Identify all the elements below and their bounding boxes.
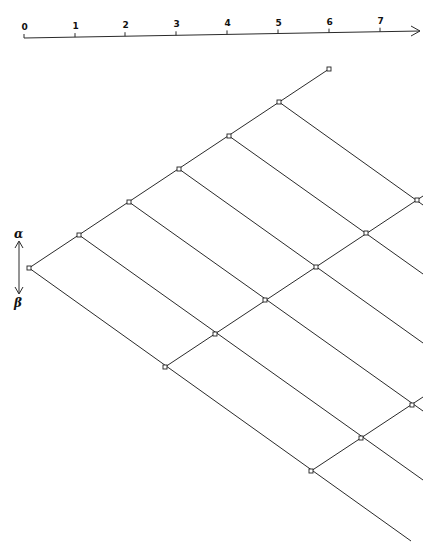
down-diagonal-line bbox=[79, 235, 423, 480]
lattice-node bbox=[410, 403, 414, 407]
lattice-node bbox=[314, 265, 318, 269]
axis-tick-label: 3 bbox=[174, 19, 180, 29]
axis-tick-label: 4 bbox=[225, 18, 231, 28]
lattice-diagram: 01234567 α β bbox=[0, 0, 441, 559]
lattice-node bbox=[163, 365, 167, 369]
lattice-node bbox=[359, 436, 363, 440]
beta-label: β bbox=[13, 296, 22, 310]
down-diagonal-line bbox=[29, 268, 411, 541]
lattice-node bbox=[177, 167, 181, 171]
axis-tick-label: 2 bbox=[123, 20, 129, 30]
axis-tick-label: 5 bbox=[276, 18, 282, 28]
axis-line bbox=[24, 31, 420, 38]
lattice-node bbox=[263, 298, 267, 302]
lattice-node bbox=[364, 231, 368, 235]
number-axis: 01234567 bbox=[22, 16, 421, 38]
lattice-nodes bbox=[27, 67, 419, 473]
alpha-label: α bbox=[14, 227, 23, 241]
lattice-node bbox=[277, 100, 281, 104]
lattice-node bbox=[77, 233, 81, 237]
up-diagonal-line bbox=[311, 397, 423, 471]
lattice-node bbox=[27, 266, 31, 270]
lattice-node bbox=[213, 332, 217, 336]
lattice-lines bbox=[29, 69, 423, 541]
lattice-node bbox=[309, 469, 313, 473]
axis-tick-label: 1 bbox=[73, 21, 79, 31]
lattice-node bbox=[127, 200, 131, 204]
axis-tick-label: 6 bbox=[327, 17, 333, 27]
lattice-node bbox=[415, 198, 419, 202]
up-diagonal-line bbox=[165, 196, 423, 367]
axis-tick-label: 7 bbox=[378, 16, 384, 26]
alpha-beta-indicator: α β bbox=[13, 227, 23, 310]
down-diagonal-line bbox=[179, 169, 423, 343]
lattice-node bbox=[327, 67, 331, 71]
down-diagonal-line bbox=[229, 136, 423, 274]
axis-tick-label: 0 bbox=[22, 22, 28, 32]
down-diagonal-line bbox=[129, 202, 423, 411]
down-diagonal-line bbox=[279, 102, 423, 205]
lattice-node bbox=[227, 134, 231, 138]
